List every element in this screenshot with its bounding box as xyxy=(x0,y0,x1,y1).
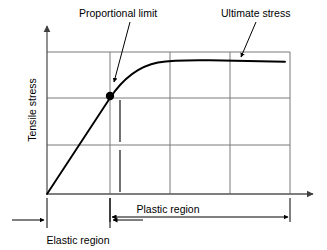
stress-strain-diagram: Proportional limit Ultimate stress Plast… xyxy=(0,0,327,250)
elastic-region-span xyxy=(12,198,143,228)
y-axis-label: Tensile stress xyxy=(27,78,38,142)
proportional-limit-dot xyxy=(106,92,114,100)
proportional-limit-label: Proportional limit xyxy=(79,8,157,19)
grid-lines xyxy=(47,52,290,194)
ultimate-stress-label: Ultimate stress xyxy=(221,8,290,19)
axes xyxy=(47,26,313,194)
elastic-region-label: Elastic region xyxy=(46,235,109,246)
plastic-region-label: Plastic region xyxy=(136,204,199,215)
stress-strain-curve xyxy=(47,60,285,194)
